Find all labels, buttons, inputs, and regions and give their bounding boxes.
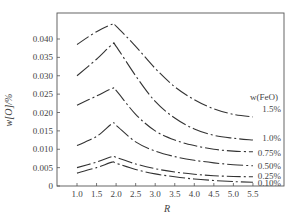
x-tick-label: 5.5 xyxy=(247,189,259,199)
legend: w(FeO)1.5%1.0%0.75%0.50%0.25%0.10% xyxy=(250,92,282,188)
y-tick-label: 0.040 xyxy=(33,34,54,44)
x-tick-label: 1.5 xyxy=(91,189,103,199)
legend-entry: 1.5% xyxy=(262,104,281,114)
x-tick-label: 3.5 xyxy=(169,189,181,199)
curve-1-0pct xyxy=(77,43,253,140)
legend-entry: 0.50% xyxy=(258,161,282,171)
y-tick-label: 0 xyxy=(49,181,54,191)
x-tick-label: 2.0 xyxy=(110,189,122,199)
y-tick-label: 0.005 xyxy=(33,163,54,173)
y-tick-label: 0.010 xyxy=(33,144,54,154)
y-tick-label: 0.020 xyxy=(33,108,54,118)
x-tick-label: 3.0 xyxy=(150,189,162,199)
curve-0-75pct xyxy=(77,88,253,152)
y-axis-title: w[O]/% xyxy=(3,94,14,127)
legend-title: w(FeO) xyxy=(250,92,278,102)
x-tick-label: 2.5 xyxy=(130,189,142,199)
curve-0-10pct xyxy=(77,162,253,183)
y-tick-label: 0.030 xyxy=(33,71,54,81)
curves xyxy=(77,23,253,182)
x-tick-label: 4.0 xyxy=(189,189,201,199)
x-tick-label: 1.0 xyxy=(71,189,83,199)
legend-entry: 1.0% xyxy=(262,133,281,143)
y-tick-label: 0.025 xyxy=(33,89,54,99)
legend-entry: 0.10% xyxy=(258,178,282,188)
legend-entry: 0.75% xyxy=(258,148,282,158)
curve-0-25pct xyxy=(77,156,253,177)
x-tick-label: 4.5 xyxy=(208,189,220,199)
x-tick-label: 5.0 xyxy=(228,189,240,199)
y-tick-label: 0.015 xyxy=(33,126,54,136)
x-axis-title: R xyxy=(163,203,170,214)
curve-1-5pct xyxy=(77,23,253,116)
oxygen-content-chart: 1.01.52.02.53.03.54.04.55.05.500.0050.01… xyxy=(0,0,294,221)
plot-axes: 1.01.52.02.53.03.54.04.55.05.500.0050.01… xyxy=(33,13,284,199)
y-tick-label: 0.035 xyxy=(33,52,54,62)
